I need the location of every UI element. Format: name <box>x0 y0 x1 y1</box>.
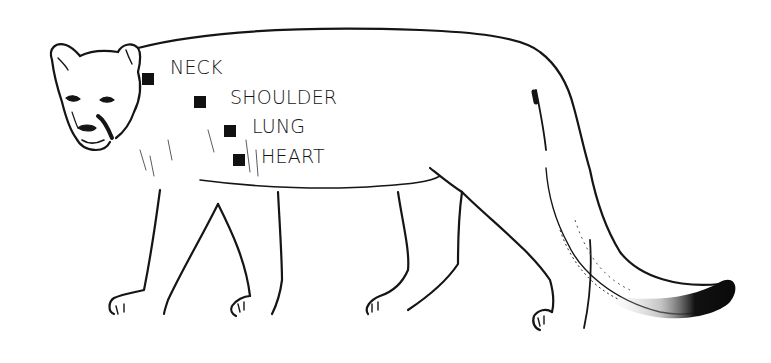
shoulder-marker <box>194 96 206 108</box>
belly-outline <box>200 176 440 188</box>
cougar-drawing <box>0 0 771 363</box>
head <box>51 44 140 150</box>
heart-label: HEART <box>261 147 325 166</box>
neck-label: NECK <box>170 58 223 77</box>
cougar-diagram: NECK SHOULDER LUNG HEART <box>0 0 771 363</box>
lung-label: LUNG <box>252 117 305 136</box>
neck-marker <box>142 73 154 85</box>
heart-marker <box>233 154 245 166</box>
lung-marker <box>224 125 236 137</box>
tail-tip <box>600 280 735 318</box>
shoulder-label: SHOULDER <box>230 88 337 107</box>
